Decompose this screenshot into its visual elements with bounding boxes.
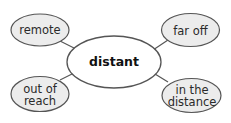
node-in-the-distance-label: in the distance [162,79,222,113]
center-node-label: distant [67,36,161,88]
node-out-of-reach-label: out of reach [16,77,64,112]
node-remote-label: remote [11,14,69,46]
node-far-off-label: far off [162,14,219,47]
